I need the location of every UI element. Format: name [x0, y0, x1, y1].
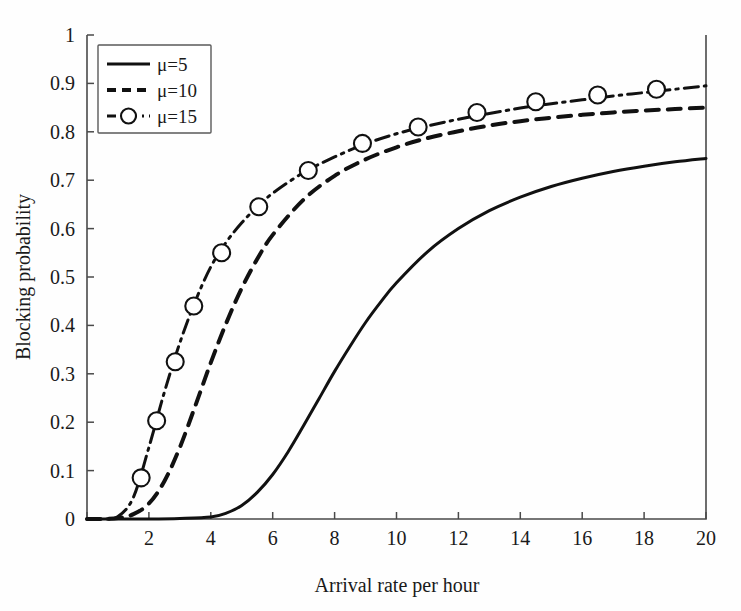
data-point-marker	[527, 93, 544, 110]
data-point-marker	[589, 87, 606, 104]
data-point-marker	[410, 118, 427, 135]
data-point-marker	[213, 244, 230, 261]
y-tick-label: 0	[65, 508, 75, 530]
y-tick-label: 0.3	[50, 363, 75, 385]
legend-label: μ=10	[157, 80, 197, 101]
series-line	[87, 86, 706, 519]
x-tick-labels: 2468101214161820	[144, 527, 716, 549]
legend-sample-marker	[121, 109, 136, 124]
data-point-marker	[468, 104, 485, 121]
x-tick-label: 6	[268, 527, 278, 549]
x-tick-label: 8	[330, 527, 340, 549]
data-point-marker	[133, 469, 150, 486]
data-point-marker	[354, 135, 371, 152]
y-tick-label: 0.6	[50, 218, 75, 240]
y-tick-label: 0.4	[50, 314, 75, 336]
x-tick-label: 16	[572, 527, 592, 549]
y-tick-label: 0.8	[50, 121, 75, 143]
x-tick-label: 18	[634, 527, 654, 549]
x-tick-label: 12	[448, 527, 468, 549]
legend: μ=5μ=10μ=15	[98, 45, 211, 133]
y-tick-label: 0.5	[50, 266, 75, 288]
y-tick-label: 1	[65, 24, 75, 46]
blocking-probability-chart: 2468101214161820 00.10.20.30.40.50.60.70…	[0, 0, 741, 611]
x-tick-label: 4	[206, 527, 216, 549]
y-tick-label: 0.9	[50, 72, 75, 94]
data-point-marker	[300, 162, 317, 179]
x-tick-label: 2	[144, 527, 154, 549]
data-point-marker	[167, 353, 184, 370]
series-2	[87, 108, 706, 519]
y-tick-label: 0.2	[50, 411, 75, 433]
legend-label: μ=15	[157, 106, 197, 127]
series-line	[87, 108, 706, 519]
data-point-marker	[185, 298, 202, 315]
y-axis-title: Blocking probability	[12, 194, 35, 360]
x-tick-label: 20	[696, 527, 716, 549]
y-tick-label: 0.1	[50, 460, 75, 482]
y-tick-label: 0.7	[50, 169, 75, 191]
y-tick-labels: 00.10.20.30.40.50.60.70.80.91	[50, 24, 75, 530]
legend-label: μ=5	[157, 54, 187, 75]
series-layer	[87, 81, 706, 519]
data-point-marker	[250, 198, 267, 215]
data-point-marker	[148, 412, 165, 429]
x-axis-title: Arrival rate per hour	[315, 574, 480, 597]
x-tick-label: 14	[510, 527, 530, 549]
data-point-marker	[648, 81, 665, 98]
x-tick-label: 10	[387, 527, 407, 549]
figure-container: 2468101214161820 00.10.20.30.40.50.60.70…	[0, 0, 741, 611]
